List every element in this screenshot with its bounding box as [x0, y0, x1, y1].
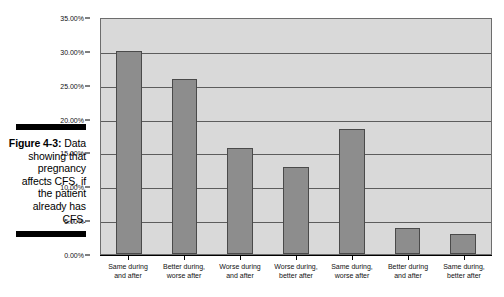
x-tick-mark — [296, 255, 297, 260]
x-axis-label: Better duringand after — [380, 262, 436, 280]
x-tick-slot — [100, 255, 156, 260]
y-tick-label: 15.00% — [60, 150, 84, 157]
x-axis-label: Same duringand after — [100, 262, 156, 280]
bar[interactable] — [339, 129, 365, 254]
x-axis-label-line: Better during, — [157, 262, 211, 271]
y-tick-label: 10.00% — [60, 184, 84, 191]
x-tick-mark — [128, 255, 129, 260]
x-axis-label: Same during,worse after — [324, 262, 380, 280]
x-tick-slot — [324, 255, 380, 260]
x-axis-label: Better during,worse after — [156, 262, 212, 280]
bar[interactable] — [395, 228, 421, 254]
bar-slot — [212, 19, 268, 254]
x-axis-label-line: and after — [101, 271, 155, 280]
x-axis-label-line: and after — [381, 271, 435, 280]
x-axis-label: Same during,better after — [436, 262, 492, 280]
x-axis-label-line: better after — [437, 271, 491, 280]
x-axis-labels: Same duringand afterBetter during,worse … — [100, 262, 492, 280]
x-tick-slot — [268, 255, 324, 260]
x-axis-label: Worse during,better after — [268, 262, 324, 280]
y-tick-mark — [85, 51, 90, 52]
y-axis: 0.00%5.00%10.00%15.00%20.00%25.00%30.00%… — [52, 10, 90, 255]
bar-slot — [101, 19, 157, 254]
bar-slot — [157, 19, 213, 254]
x-tick-mark — [464, 255, 465, 260]
x-axis-label-line: better after — [269, 271, 323, 280]
bar[interactable] — [116, 51, 142, 254]
x-tick-slot — [436, 255, 492, 260]
x-axis-label-line: and after — [213, 271, 267, 280]
y-tick-mark — [85, 119, 90, 120]
x-axis-label-line: worse after — [325, 271, 379, 280]
y-tick-label: 20.00% — [60, 116, 84, 123]
x-tick-mark — [240, 255, 241, 260]
figure-container: Figure 4-3: Data showing that pregnancy … — [0, 0, 504, 297]
x-axis-label-line: Better during — [381, 262, 435, 271]
bar-slot — [380, 19, 436, 254]
x-axis-ticks — [100, 255, 492, 260]
x-tick-mark — [408, 255, 409, 260]
bar[interactable] — [450, 234, 476, 254]
y-tick-mark — [85, 187, 90, 188]
y-tick-label: 5.00% — [64, 218, 84, 225]
x-tick-slot — [380, 255, 436, 260]
y-tick-label: 0.00% — [64, 252, 84, 259]
x-tick-mark — [184, 255, 185, 260]
plot-area — [100, 18, 492, 255]
x-tick-mark — [352, 255, 353, 260]
bar-slot — [268, 19, 324, 254]
bar-slot — [435, 19, 491, 254]
bars-layer — [101, 19, 491, 254]
x-axis-label-line: Worse during — [213, 262, 267, 271]
bar[interactable] — [283, 167, 309, 254]
x-axis-label-line: Worse during, — [269, 262, 323, 271]
y-tick-mark — [85, 85, 90, 86]
bar-chart: 0.00%5.00%10.00%15.00%20.00%25.00%30.00%… — [92, 10, 496, 297]
bar[interactable] — [227, 148, 253, 254]
x-axis-label-line: worse after — [157, 271, 211, 280]
y-tick-mark — [85, 255, 90, 256]
x-axis-label: Worse duringand after — [212, 262, 268, 280]
y-tick-label: 35.00% — [60, 15, 84, 22]
bar-slot — [324, 19, 380, 254]
x-tick-slot — [212, 255, 268, 260]
y-tick-mark — [85, 221, 90, 222]
y-tick-mark — [85, 18, 90, 19]
y-tick-mark — [85, 153, 90, 154]
x-axis-label-line: Same during, — [437, 262, 491, 271]
x-axis-label-line: Same during — [101, 262, 155, 271]
x-tick-slot — [156, 255, 212, 260]
bar[interactable] — [172, 79, 198, 254]
y-tick-label: 30.00% — [60, 48, 84, 55]
x-axis-label-line: Same during, — [325, 262, 379, 271]
y-tick-label: 25.00% — [60, 82, 84, 89]
